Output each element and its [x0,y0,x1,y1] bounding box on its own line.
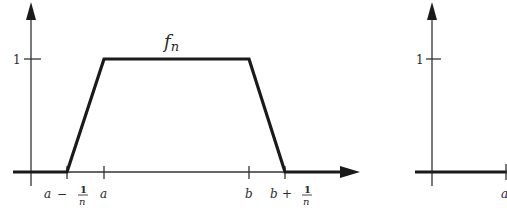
x-label-a: a [100,187,107,201]
svg-text:1: 1 [304,184,311,195]
right-plot: 1 a [415,2,507,201]
fn-curve [13,59,345,172]
left-plot: 1 fn a − 1 n a b b + 1 n [13,2,360,207]
figure-canvas: 1 fn a − 1 n a b b + 1 n [0,0,507,222]
x-label-b: b [245,187,253,201]
right-y-tick-label-1: 1 [416,53,424,67]
svg-text:+: + [282,187,292,201]
left-y-tick-label-1: 1 [13,53,21,67]
x-label-a-minus-1n: a − 1 n [44,184,88,207]
svg-text:a: a [44,187,51,201]
svg-text:n: n [79,196,85,207]
svg-text:b: b [270,187,278,201]
fn-label: fn [162,31,179,54]
svg-text:−: − [57,187,67,201]
svg-text:1: 1 [80,184,87,195]
x-label-b-plus-1n: b + 1 n [270,184,312,207]
right-x-label-a: a [501,187,507,201]
svg-text:n: n [303,196,309,207]
left-y-axis-arrowhead-icon [26,2,36,20]
right-y-axis-arrowhead-icon [427,2,437,20]
